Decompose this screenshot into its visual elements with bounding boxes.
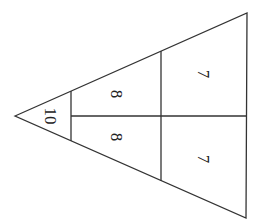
- label-row2-bottom: 8: [107, 133, 126, 142]
- label-row2-top: 8: [107, 90, 126, 99]
- label-apex: 10: [41, 108, 60, 125]
- label-row3-bottom: 7: [194, 155, 213, 164]
- label-row3-top: 7: [194, 70, 213, 79]
- triangle-diagram: 10 8 8 7 7: [0, 0, 265, 220]
